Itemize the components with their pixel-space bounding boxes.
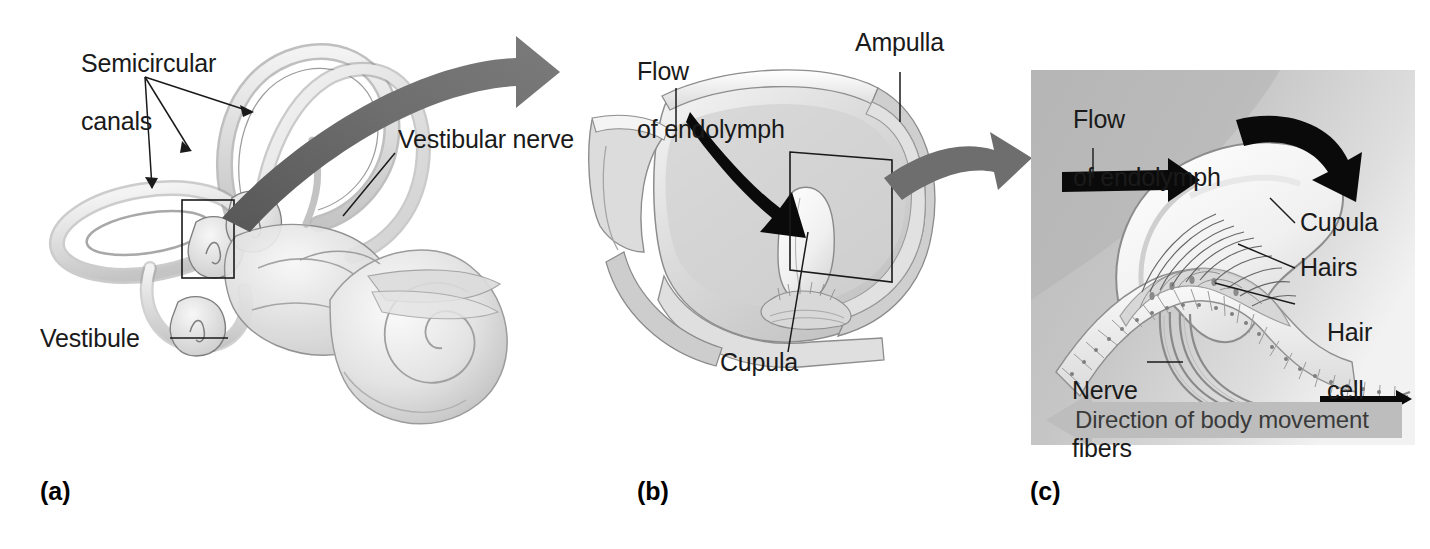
label-semicircular-canals: Semicircular canals	[54, 20, 216, 165]
label-vestibule: Vestibule	[40, 324, 140, 353]
label-direction-of-body-movement: Direction of body movement	[1075, 405, 1369, 434]
label-hairs: Hairs	[1300, 253, 1357, 282]
label-cupula-b: Cupula	[720, 348, 798, 377]
panel-letter-a: (a)	[40, 477, 71, 506]
label-flow-of-endolymph-b: Flow of endolymph	[610, 28, 785, 173]
label-flow-of-endolymph-c: Flow of endolymph	[1046, 76, 1221, 221]
label-vestibular-nerve: Vestibular nerve	[398, 125, 574, 154]
label-ampulla: Ampulla	[855, 28, 944, 57]
label-cupula-c: Cupula	[1300, 208, 1378, 237]
panel-letter-c: (c)	[1030, 477, 1061, 506]
figure-vestibular-apparatus: Semicircular canals Vestibular nerve Ves…	[0, 0, 1430, 549]
panel-letter-b: (b)	[637, 477, 669, 506]
